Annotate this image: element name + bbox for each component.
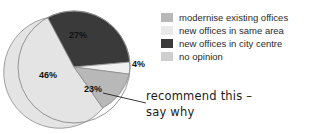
pie-label-no-opinion: 4% — [132, 59, 145, 69]
legend-label-no-opinion: no opinion — [179, 51, 223, 62]
legend-swatch-icon-modernise — [161, 13, 173, 22]
chart-canvas: 27% 46% 23% 4% modernise existing office… — [0, 0, 311, 134]
legend-item-modernise[interactable]: modernise existing offices — [161, 11, 309, 24]
annotation-line-1: recommend this – — [146, 88, 296, 104]
legend-item-city-centre[interactable]: new offices in city centre — [161, 37, 309, 50]
pie-label-same-area: 46% — [39, 70, 57, 80]
annotation-line-2: say why — [146, 104, 296, 120]
legend-item-same-area[interactable]: new offices in same area — [161, 24, 309, 37]
legend-swatch-icon-same-area — [161, 26, 173, 35]
handwritten-annotation: recommend this – say why — [146, 88, 296, 120]
legend-label-modernise: modernise existing offices — [179, 12, 288, 23]
legend-item-no-opinion[interactable]: no opinion — [161, 50, 309, 63]
pie-label-modernise: 23% — [84, 84, 102, 94]
pie-chart: 27% 46% 23% 4% — [0, 0, 160, 134]
legend-swatch-icon-city-centre — [161, 39, 173, 48]
legend-label-same-area: new offices in same area — [179, 25, 284, 36]
pie-chart-svg: 27% 46% 23% 4% — [0, 0, 160, 134]
legend-label-city-centre: new offices in city centre — [179, 38, 282, 49]
chart-legend: modernise existing offices new offices i… — [161, 11, 309, 63]
legend-swatch-icon-no-opinion — [161, 52, 173, 61]
pie-label-city-centre: 27% — [69, 30, 87, 40]
